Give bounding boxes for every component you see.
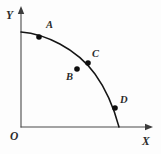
x-axis-label: X bbox=[141, 135, 150, 147]
origin-label: O bbox=[10, 130, 18, 142]
point-label-b: B bbox=[65, 71, 73, 82]
y-axis-label: Y bbox=[6, 9, 14, 21]
data-point-a bbox=[36, 34, 42, 40]
point-label-a: A bbox=[45, 19, 53, 30]
x-axis-arrow-icon bbox=[145, 124, 153, 130]
data-point-b bbox=[74, 66, 80, 72]
coordinate-plane-diagram: A B C D Y O X bbox=[0, 0, 161, 154]
data-point-c bbox=[85, 60, 91, 66]
point-label-c: C bbox=[92, 48, 100, 59]
y-axis-arrow-icon bbox=[18, 6, 24, 14]
data-point-d bbox=[112, 105, 118, 111]
figure-container: A B C D Y O X bbox=[0, 0, 161, 154]
point-label-d: D bbox=[119, 94, 128, 105]
